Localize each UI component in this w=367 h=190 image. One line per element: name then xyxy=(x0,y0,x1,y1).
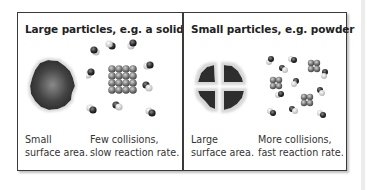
large-particle-icon xyxy=(18,49,88,129)
particle-lattice-icon xyxy=(86,35,176,130)
split-particle-icon xyxy=(188,51,258,131)
comparison-diagram: Large particles, e.g. a solid xyxy=(17,12,347,171)
caption-collisions: More collisions, fast reaction rate. xyxy=(258,134,344,159)
particle-clusters-icon xyxy=(258,53,344,133)
panel-large-particles: Large particles, e.g. a solid xyxy=(18,13,182,170)
caption-surface-area: Large surface area. xyxy=(191,134,254,159)
caption-surface-area: Small surface area. xyxy=(25,134,88,159)
panel-title: Large particles, e.g. a solid xyxy=(25,23,184,35)
panel-small-particles: Small particles, e.g. powder xyxy=(184,13,346,170)
panel-title: Small particles, e.g. powder xyxy=(191,23,354,35)
page-edge-strip xyxy=(361,0,365,190)
caption-collisions: Few collisions, slow reaction rate. xyxy=(90,134,179,159)
